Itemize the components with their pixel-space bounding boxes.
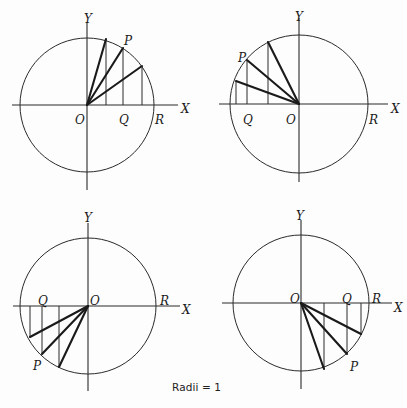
label-p: P xyxy=(123,34,133,48)
label-y: Y xyxy=(84,211,93,225)
label-q: Q xyxy=(243,113,253,127)
label-r: R xyxy=(159,294,169,308)
label-o: O xyxy=(286,113,296,127)
label-y: Y xyxy=(296,209,305,223)
label-q: Q xyxy=(119,113,129,127)
radius-line xyxy=(247,60,299,104)
four-quadrant-diagrams: YXOQRPYXOQRPYXOQRPYXOQRP xyxy=(0,0,407,408)
radius-line xyxy=(87,39,106,105)
radius-line xyxy=(87,66,142,105)
quadrant-3-diagram: YXOQRP xyxy=(13,211,191,391)
quadrant-4-diagram: YXOQRP xyxy=(222,209,403,389)
label-r: R xyxy=(368,113,378,127)
label-p: P xyxy=(32,359,42,373)
label-p: P xyxy=(349,360,359,374)
radius-line xyxy=(42,306,88,354)
label-y: Y xyxy=(295,10,304,24)
label-q: Q xyxy=(342,292,352,306)
label-r: R xyxy=(154,113,164,127)
quadrant-2-diagram: YXOQRP xyxy=(219,10,400,182)
label-o: O xyxy=(75,113,85,127)
label-o: O xyxy=(90,294,100,308)
label-q: Q xyxy=(38,294,48,308)
radius-line xyxy=(59,306,88,367)
label-x: X xyxy=(390,102,400,116)
radius-line xyxy=(87,48,123,105)
unit-circle-quadrant-figure: YXOQRPYXOQRPYXOQRPYXOQRP Radii = 1 xyxy=(0,0,407,408)
label-r: R xyxy=(371,292,381,306)
label-x: X xyxy=(393,301,403,315)
quadrant-1-diagram: YXOQRP xyxy=(12,12,190,190)
label-p: P xyxy=(237,51,247,65)
radii-caption: Radii = 1 xyxy=(172,381,221,393)
label-x: X xyxy=(180,102,190,116)
label-x: X xyxy=(181,303,191,317)
label-o: O xyxy=(290,292,300,306)
label-y: Y xyxy=(84,12,93,26)
